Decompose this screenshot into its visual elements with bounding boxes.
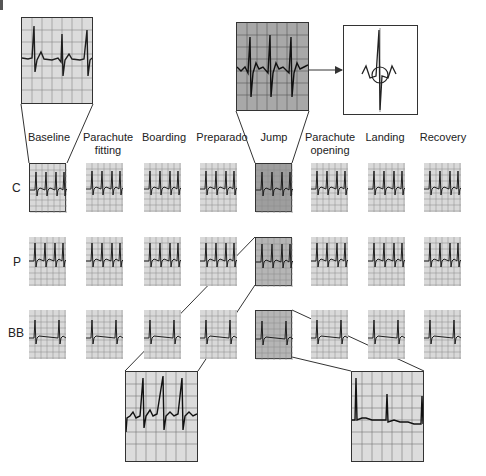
ecg-trace xyxy=(368,310,405,359)
ecg-trace xyxy=(126,372,197,461)
qrs-detail-inset xyxy=(343,25,418,115)
label-line: Parachute xyxy=(78,131,138,144)
ecg-trace xyxy=(352,372,423,461)
ecg-trace xyxy=(237,23,308,110)
label-line: Parachute xyxy=(299,131,361,144)
ecg-strip-p-boarding xyxy=(144,237,181,286)
enlarged-strip-jump-p xyxy=(125,371,198,462)
ecg-strip-bb-parachute-fitting xyxy=(86,310,123,359)
column-label-parachute-opening: Parachute opening xyxy=(299,131,361,157)
ecg-strip-c-boarding xyxy=(144,163,181,212)
row-label-bb: BB xyxy=(8,326,24,340)
column-label-boarding: Boarding xyxy=(134,131,194,144)
ecg-strip-p-baseline xyxy=(29,237,66,286)
qrs-complex-icon xyxy=(344,26,417,114)
ecg-strip-c-jump xyxy=(255,163,292,212)
ecg-trace xyxy=(29,237,66,286)
ecg-strip-p-landing xyxy=(368,237,405,286)
enlarged-strip-jump-c xyxy=(236,22,309,111)
ecg-trace xyxy=(200,310,237,359)
ecg-strip-bb-baseline xyxy=(29,310,66,359)
ecg-trace xyxy=(144,310,181,359)
ecg-trace xyxy=(424,163,461,212)
ecg-strip-p-jump xyxy=(255,237,292,286)
ecg-trace xyxy=(311,237,348,286)
ecg-strip-bb-jump xyxy=(255,310,292,359)
column-label-recovery: Recovery xyxy=(412,131,474,144)
row-label-p: P xyxy=(13,255,21,269)
ecg-trace xyxy=(86,310,123,359)
ecg-strip-bb-recovery xyxy=(424,310,461,359)
ecg-strip-c-landing xyxy=(368,163,405,212)
ecg-trace xyxy=(311,163,348,212)
ecg-strip-p-parachute-fitting xyxy=(86,237,123,286)
ecg-strip-p-parachute-opening xyxy=(311,237,348,286)
enlarged-strip-baseline-c xyxy=(21,17,93,104)
ecg-trace xyxy=(256,164,293,213)
label-line: opening xyxy=(299,144,361,157)
row-label-c: C xyxy=(12,181,21,195)
column-label-baseline: Baseline xyxy=(14,131,84,144)
ecg-trace xyxy=(256,311,293,360)
ecg-trace xyxy=(144,163,181,212)
ecg-trace xyxy=(368,163,405,212)
label-line: Jump xyxy=(244,131,304,144)
label-line: fitting xyxy=(78,144,138,157)
column-label-parachute-fitting: Parachute fitting xyxy=(78,131,138,157)
ecg-trace xyxy=(200,163,237,212)
label-line: Recovery xyxy=(412,131,474,144)
ecg-strip-c-parachute-opening xyxy=(311,163,348,212)
ecg-trace xyxy=(424,237,461,286)
ecg-trace xyxy=(86,237,123,286)
ecg-trace xyxy=(200,237,237,286)
ecg-strip-c-preparado xyxy=(200,163,237,212)
ecg-strip-p-recovery xyxy=(424,237,461,286)
ecg-strip-c-recovery xyxy=(424,163,461,212)
ecg-strip-bb-parachute-opening xyxy=(311,310,348,359)
column-label-jump: Jump xyxy=(244,131,304,144)
ecg-strip-c-baseline xyxy=(29,163,66,212)
ecg-strip-p-preparado xyxy=(200,237,237,286)
label-line: Boarding xyxy=(134,131,194,144)
enlarged-strip-jump-bb xyxy=(351,371,424,462)
ecg-strip-bb-landing xyxy=(368,310,405,359)
ecg-trace xyxy=(30,164,67,213)
ecg-trace xyxy=(86,163,123,212)
ecg-strip-c-parachute-fitting xyxy=(86,163,123,212)
ecg-strip-bb-boarding xyxy=(144,310,181,359)
column-label-landing: Landing xyxy=(355,131,415,144)
ecg-trace xyxy=(368,237,405,286)
label-line: Baseline xyxy=(14,131,84,144)
ecg-trace xyxy=(22,18,92,103)
label-line: Landing xyxy=(355,131,415,144)
ecg-trace xyxy=(29,310,66,359)
ecg-strip-bb-preparado xyxy=(200,310,237,359)
ecg-trace xyxy=(144,237,181,286)
ecg-trace xyxy=(424,310,461,359)
ecg-trace xyxy=(256,238,293,287)
ecg-trace xyxy=(311,310,348,359)
